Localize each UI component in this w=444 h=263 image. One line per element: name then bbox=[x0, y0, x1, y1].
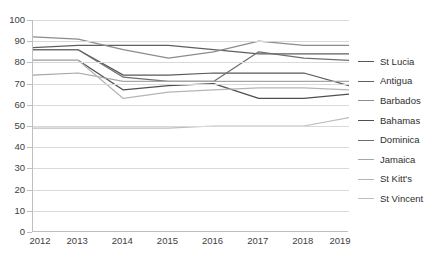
legend-label: Dominica bbox=[380, 135, 420, 145]
y-axis-tick-label: 70 bbox=[0, 79, 25, 89]
series-line bbox=[33, 60, 349, 98]
x-axis: 20122013201420152016201720182019 bbox=[32, 236, 348, 256]
y-axis-tick-label: 40 bbox=[0, 142, 25, 152]
legend-item[interactable]: Dominica bbox=[358, 130, 444, 150]
y-axis: 0102030405060708090100 bbox=[0, 0, 30, 252]
legend-color-swatch bbox=[358, 100, 374, 101]
legend-color-swatch bbox=[358, 179, 374, 180]
legend-label: Barbados bbox=[380, 96, 421, 106]
legend-item[interactable]: Bahamas bbox=[358, 111, 444, 131]
gridline bbox=[33, 20, 349, 21]
gridline bbox=[33, 147, 349, 148]
plot-area bbox=[32, 20, 348, 232]
gridline bbox=[33, 168, 349, 169]
legend-item[interactable]: St Kitt's bbox=[358, 170, 444, 190]
gridline bbox=[33, 190, 349, 191]
y-axis-tick-label: 10 bbox=[0, 206, 25, 216]
x-axis-tick-label: 2016 bbox=[191, 236, 235, 246]
y-axis-tick-label: 50 bbox=[0, 121, 25, 131]
legend-label: Jamaica bbox=[380, 155, 415, 165]
y-axis-tick-label: 90 bbox=[0, 36, 25, 46]
legend-item[interactable]: St Lucia bbox=[358, 52, 444, 72]
legend: St LuciaAntiguaBarbadosBahamasDominicaJa… bbox=[358, 52, 444, 209]
legend-item[interactable]: St Vincent bbox=[358, 189, 444, 209]
y-axis-tick-label: 20 bbox=[0, 185, 25, 195]
x-axis-tick-label: 2013 bbox=[55, 236, 99, 246]
series-line bbox=[33, 60, 349, 98]
legend-label: St Kitt's bbox=[380, 174, 412, 184]
x-axis-tick-label: 2019 bbox=[318, 236, 362, 246]
legend-label: Bahamas bbox=[380, 116, 420, 126]
y-axis-tick-label: 60 bbox=[0, 100, 25, 110]
gridline bbox=[33, 84, 349, 85]
legend-color-swatch bbox=[358, 198, 374, 199]
legend-label: St Vincent bbox=[380, 194, 423, 204]
x-axis-tick-label: 2014 bbox=[100, 236, 144, 246]
x-axis-tick-label: 2017 bbox=[236, 236, 280, 246]
y-axis-tick-mark bbox=[27, 232, 32, 233]
legend-color-swatch bbox=[358, 120, 374, 121]
gridline bbox=[33, 41, 349, 42]
legend-item[interactable]: Barbados bbox=[358, 91, 444, 111]
y-axis-tick-label: 80 bbox=[0, 57, 25, 67]
line-chart: 0102030405060708090100 20122013201420152… bbox=[0, 0, 444, 263]
gridline bbox=[33, 211, 349, 212]
y-axis-tick-label: 30 bbox=[0, 163, 25, 173]
y-axis-tick-label: 100 bbox=[0, 15, 25, 25]
legend-color-swatch bbox=[358, 81, 374, 82]
gridline bbox=[33, 62, 349, 63]
legend-color-swatch bbox=[358, 61, 374, 62]
x-axis-tick-label: 2015 bbox=[145, 236, 189, 246]
legend-color-swatch bbox=[358, 159, 374, 160]
legend-label: Antigua bbox=[380, 76, 412, 86]
legend-item[interactable]: Antigua bbox=[358, 72, 444, 92]
series-line bbox=[33, 45, 349, 53]
gridline bbox=[33, 126, 349, 127]
legend-color-swatch bbox=[358, 140, 374, 141]
gridline bbox=[33, 105, 349, 106]
legend-item[interactable]: Jamaica bbox=[358, 150, 444, 170]
legend-label: St Lucia bbox=[380, 57, 414, 67]
